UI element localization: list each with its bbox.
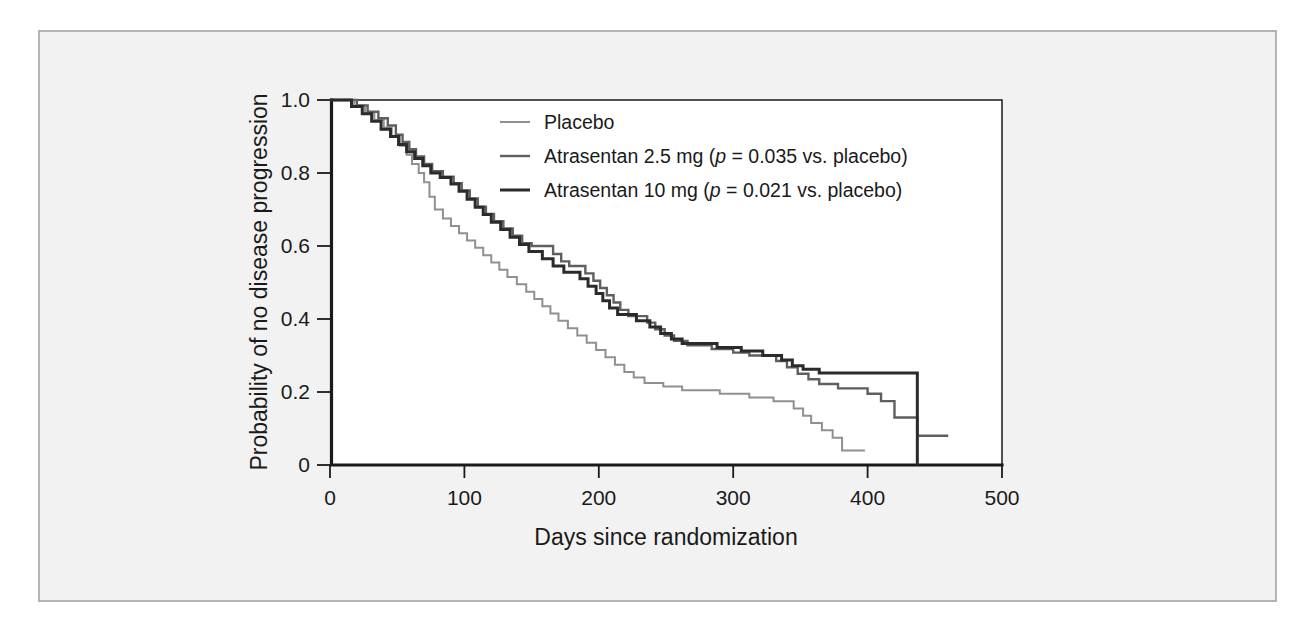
x-axis-ticks: 0100200300400500: [324, 465, 1019, 509]
legend-label-2: Atrasentan 10 mg (p = 0.021 vs. placebo): [544, 179, 902, 201]
y-tick-label: 0: [298, 453, 310, 476]
y-tick-label: 0.6: [281, 234, 310, 257]
x-tick-label: 500: [984, 486, 1019, 509]
legend-label-1: Atrasentan 2.5 mg (p = 0.035 vs. placebo…: [544, 145, 908, 167]
x-axis-title: Days since randomization: [534, 524, 797, 550]
y-axis-title: Probability of no disease progression: [246, 93, 272, 470]
x-tick-label: 400: [850, 486, 885, 509]
chart-svg: 00.20.40.60.81.0 0100200300400500 Probab…: [0, 0, 1310, 638]
y-tick-label: 0.4: [281, 307, 311, 330]
x-tick-label: 100: [447, 486, 482, 509]
kaplan-meier-chart: 00.20.40.60.81.0 0100200300400500 Probab…: [0, 0, 1310, 638]
y-tick-label: 1.0: [281, 88, 310, 111]
x-tick-label: 200: [581, 486, 616, 509]
y-tick-label: 0.8: [281, 161, 310, 184]
y-axis-ticks: 00.20.40.60.81.0: [281, 88, 330, 476]
x-tick-label: 300: [716, 486, 751, 509]
y-tick-label: 0.2: [281, 380, 310, 403]
x-tick-label: 0: [324, 486, 336, 509]
legend-label-0: Placebo: [544, 111, 615, 133]
